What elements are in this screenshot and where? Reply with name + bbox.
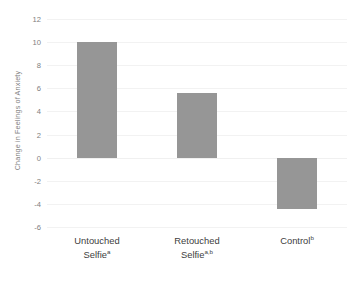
y-tick-label-4: 4	[37, 107, 41, 116]
x-axis-category-labels: UntouchedSelfieaRetouchedSelfiea,bContro…	[47, 234, 347, 280]
y-tick-label-12: 12	[33, 15, 41, 24]
y-tick-label-10: 10	[33, 38, 41, 47]
bar-untouched-selfie	[77, 42, 117, 158]
y-tick-label--4: -4	[34, 199, 41, 208]
bar-control	[277, 158, 317, 209]
x-axis-label-line2: Selfiea,b	[147, 248, 247, 262]
bar-chart-figure: Change in Feelings of Anxiety 121086420-…	[0, 0, 354, 283]
gridline-12	[47, 19, 347, 20]
y-tick-label-8: 8	[37, 61, 41, 70]
y-tick-label-0: 0	[37, 153, 41, 162]
bar-retouched-selfie	[177, 93, 217, 158]
x-axis-label-line1: Retouched	[147, 234, 247, 248]
x-axis-label-untouched-selfie: UntouchedSelfiea	[47, 234, 147, 261]
y-tick-label-2: 2	[37, 130, 41, 139]
x-axis-label-control: Controlb	[247, 234, 347, 248]
x-axis-label-line1: Untouched	[47, 234, 147, 248]
plot-area: 121086420-2-4-6	[47, 19, 347, 227]
gridline--6	[47, 227, 347, 228]
x-axis-label-superscript: b	[310, 234, 313, 241]
x-axis-label-superscript: a,b	[204, 247, 213, 254]
y-axis-title-text: Change in Feelings of Anxiety	[14, 70, 23, 169]
x-axis-label-line1: Controlb	[247, 234, 347, 248]
y-tick-label--2: -2	[34, 176, 41, 185]
x-axis-label-line2: Selfiea	[47, 248, 147, 262]
y-tick-label-6: 6	[37, 84, 41, 93]
x-axis-label-superscript: a	[107, 247, 110, 254]
y-axis-title: Change in Feelings of Anxiety	[10, 0, 26, 240]
x-axis-label-retouched-selfie: RetouchedSelfiea,b	[147, 234, 247, 261]
y-tick-label--6: -6	[34, 223, 41, 232]
